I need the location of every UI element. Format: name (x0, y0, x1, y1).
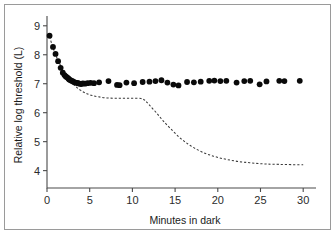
y-tick-label: 8 (34, 49, 40, 61)
chart-plot: 051015202530 456789 Minutes in dark Rela… (0, 0, 335, 234)
scatter-points (47, 33, 303, 89)
x-tick-label: 5 (87, 194, 93, 206)
x-tick-label: 0 (44, 194, 50, 206)
data-point (206, 78, 212, 84)
data-point (131, 80, 137, 86)
data-point (241, 78, 247, 84)
y-tick-group (43, 26, 47, 171)
data-point (153, 78, 159, 84)
data-point (198, 79, 204, 85)
y-tick-labels: 456789 (34, 20, 40, 177)
x-axis-title: Minutes in dark (149, 214, 221, 226)
x-tick-label: 30 (297, 194, 309, 206)
data-point (147, 79, 153, 85)
data-point (58, 65, 64, 71)
data-point (50, 44, 56, 50)
data-point (117, 82, 123, 88)
data-point (211, 78, 217, 84)
data-point (234, 80, 240, 86)
x-tick-label: 25 (254, 194, 266, 206)
data-point (297, 78, 303, 84)
x-tick-label: 20 (212, 194, 224, 206)
data-point (247, 78, 253, 84)
data-point (282, 78, 288, 84)
data-point (276, 78, 282, 84)
data-point (217, 78, 223, 84)
dark-adaptation-chart: 051015202530 456789 Minutes in dark Rela… (0, 0, 335, 234)
data-point (159, 77, 165, 83)
data-point (264, 79, 270, 85)
data-point (124, 80, 130, 86)
y-tick-label: 6 (34, 107, 40, 119)
y-tick-label: 4 (34, 165, 40, 177)
axes-group (47, 16, 316, 188)
x-tick-label: 15 (169, 194, 181, 206)
data-point (91, 80, 97, 86)
y-tick-label: 5 (34, 136, 40, 148)
data-point (55, 58, 61, 64)
data-point (53, 51, 59, 57)
figure-container: 051015202530 456789 Minutes in dark Rela… (0, 0, 335, 234)
data-point (47, 33, 53, 39)
data-point (257, 81, 263, 87)
x-tick-group (47, 188, 303, 192)
data-point (191, 79, 197, 85)
data-point (170, 82, 176, 88)
x-tick-label: 10 (126, 194, 138, 206)
biphasic-reference-curve (50, 37, 304, 165)
y-tick-label: 9 (34, 20, 40, 32)
data-point (140, 79, 146, 85)
x-tick-labels: 051015202530 (44, 194, 309, 206)
data-point (96, 79, 102, 85)
data-point (223, 78, 229, 84)
data-point (106, 78, 112, 84)
data-point (184, 79, 190, 85)
data-point (176, 83, 182, 89)
y-tick-label: 7 (34, 78, 40, 90)
y-axis-title: Relative log threshold (L) (12, 47, 24, 164)
data-point (165, 80, 171, 86)
